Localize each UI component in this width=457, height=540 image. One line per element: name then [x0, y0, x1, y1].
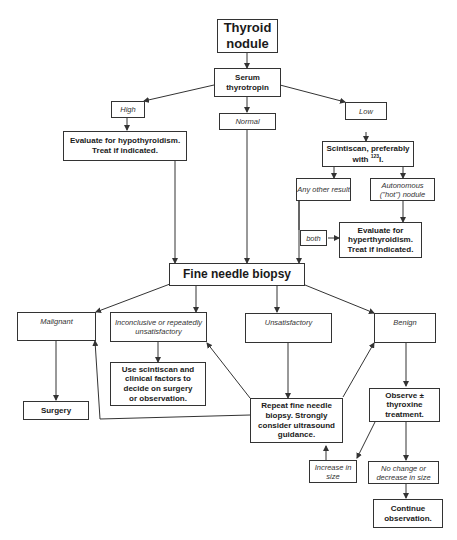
node-high: High — [111, 101, 145, 118]
node-no-change: No change or decrease in size — [368, 461, 439, 484]
node-evaluate-hypothyroidism: Evaluate for hypothyroidism. Treat if in… — [63, 131, 187, 161]
scintiscan-label: Scintiscan, preferably with 123I. — [323, 144, 413, 165]
node-evaluate-hyperthyroidism: Evaluate for hyperthyroidism. Treat if i… — [339, 222, 422, 258]
node-low: Low — [345, 102, 387, 120]
node-fine-needle-biopsy: Fine needle biopsy — [169, 263, 305, 286]
node-serum-thyrotropin: Serum thyrotropin — [214, 68, 281, 97]
node-use-scintiscan: Use scintiscan and clinical factors to d… — [110, 362, 206, 406]
node-observe: Observe ± thyroxine treatment. — [369, 388, 440, 422]
node-unsatisfactory: Unsatisfactory — [245, 313, 332, 343]
node-autonomous-hot-nodule: Autonomous ("hot") nodule — [370, 178, 435, 201]
node-surgery: Surgery — [23, 401, 89, 420]
node-thyroid-nodule: Thyroid nodule — [217, 19, 278, 53]
node-scintiscan: Scintiscan, preferably with 123I. — [322, 141, 414, 167]
node-any-other-result: Any other result — [296, 178, 351, 201]
node-increase-in-size: Increase in size — [309, 460, 357, 483]
node-continue-observation: Continue observation. — [373, 499, 443, 528]
node-benign: Benign — [374, 313, 436, 343]
node-malignant: Malignant — [17, 312, 96, 341]
node-inconclusive: Inconclusive or repeatedly unsatisfactor… — [110, 312, 207, 342]
node-normal: Normal — [219, 113, 276, 130]
node-both: both — [300, 230, 327, 246]
node-repeat-fine-needle-biopsy: Repeat fine needle biopsy. Strongly cons… — [250, 398, 343, 443]
